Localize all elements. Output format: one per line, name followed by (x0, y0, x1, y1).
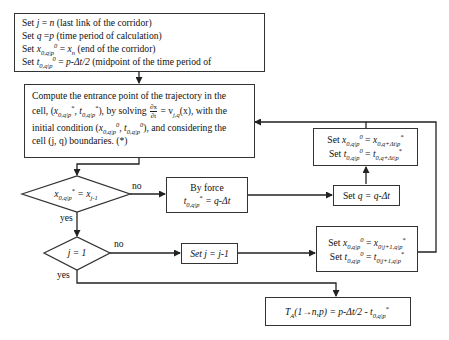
compute-line-2: cell, (x0,q|p*, t0,q|p*), by solving ∂x∂… (32, 103, 227, 120)
decision2-text: j = 1 (44, 247, 110, 258)
by-force-box: By force t0,q|p* = q-Δt (166, 177, 248, 213)
set-j-text: Set j = j-1 (182, 248, 237, 259)
by-force-line-1: By force (167, 182, 247, 193)
set-j-box: Set j = j-1 (181, 243, 238, 264)
init-box: Set j = n (last link of the corridor) Se… (14, 13, 265, 72)
by-force-line-2: t0,q|p* = q-Δt (167, 195, 247, 206)
compute-line-3: initial condition (x0,q|p0, t0,q|p0), an… (32, 122, 226, 133)
decision1-no-label: no (132, 180, 142, 191)
set-next-q-box: Set x0,q|p0 = x0,q+Δt|p* Set t0,q|p0 = t… (313, 128, 418, 166)
decision1-yes-label: yes (60, 212, 73, 223)
set-q-box: Set q = q-Δt (333, 185, 400, 206)
result-text: TA(1→n,p) = p-Δt/2 - t0,q|p* (266, 306, 408, 317)
init-line-4: Set t0,q|p0 = p-Δt/2 (midpoint of the ti… (22, 56, 211, 67)
decision2-no-label: no (114, 238, 124, 249)
init-line-3: Set x0,q|p0 = xn (end of the corridor) (22, 43, 156, 54)
set-q-text: Set q = q-Δt (334, 190, 399, 201)
set-next-q-line-2: Set t0,q|p0 = t0,q+Δt|p* (314, 148, 417, 159)
set-next-j-box: Set x0,q|p0 = x0|j+1,q|p* Set t0,q|p0 = … (316, 226, 418, 272)
partial-derivative-fraction: ∂x∂t (150, 103, 157, 120)
compute-line-4: cell (j, q) boundaries. (*) (32, 135, 127, 146)
decision2-yes-label: yes (57, 269, 70, 280)
set-next-j-line-2: Set t0,q|p0 = t0|j+1,q|p* (317, 251, 417, 262)
init-line-1: Set j = n (last link of the corridor) (22, 17, 152, 28)
compute-box: Compute the entrance point of the trajec… (24, 84, 255, 158)
compute-line-1: Compute the entrance point of the trajec… (32, 90, 248, 101)
set-next-q-line-1: Set x0,q|p0 = x0,q+Δt|p* (314, 134, 417, 145)
result-box: TA(1→n,p) = p-Δt/2 - t0,q|p* (265, 297, 411, 326)
set-next-j-line-1: Set x0,q|p0 = x0|j+1,q|p* (317, 237, 417, 248)
decision1-text: x0,q|p* = xj-1 (22, 188, 130, 199)
init-line-2: Set q =p (time period of calculation) (22, 30, 162, 41)
